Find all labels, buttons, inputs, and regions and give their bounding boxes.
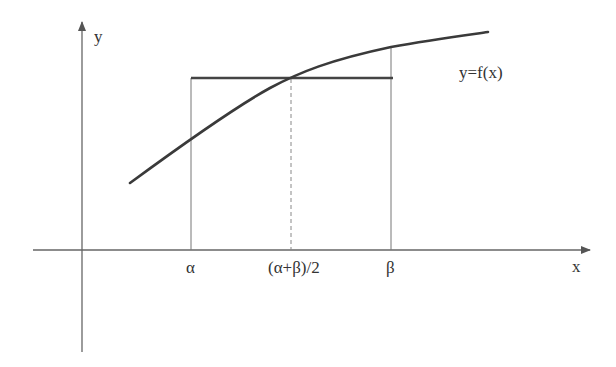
alpha-tick-label: α (186, 258, 195, 277)
beta-tick-label: β (386, 258, 395, 277)
y-axis-label: y (94, 27, 103, 46)
x-axis-label: x (572, 257, 581, 276)
curve-label: y=f(x) (459, 63, 503, 82)
function-curve (130, 32, 488, 183)
function-diagram: y x y=f(x) α (α+β)/2 β (0, 0, 616, 367)
midpoint-tick-label: (α+β)/2 (268, 258, 320, 277)
